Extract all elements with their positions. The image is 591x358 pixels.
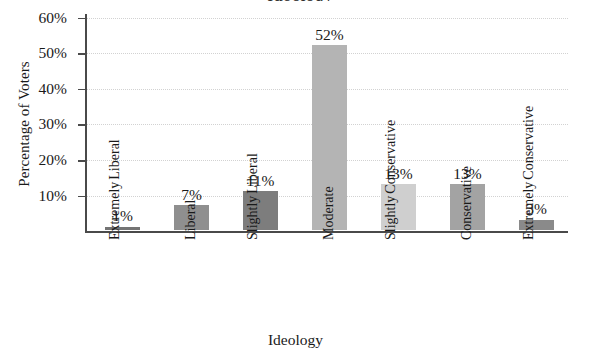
category-label-word: Liberal: [108, 139, 123, 179]
category-label-word: Liberal: [246, 153, 261, 193]
y-tick-label: 40%: [39, 81, 67, 97]
category-label: ExtremelyConservative: [522, 106, 537, 240]
category-label: SlightlyConservative: [384, 120, 399, 240]
gridline-60: [85, 18, 568, 19]
category-label-word: Liberal: [184, 200, 199, 240]
y-tick-label: 10%: [39, 188, 67, 204]
category-label-word: Moderate: [322, 186, 337, 240]
category-label-word: Slightly: [246, 196, 261, 240]
category-label: SlightlyLiberal: [246, 153, 261, 240]
x-axis-title: Ideology: [0, 331, 591, 349]
y-tick-30: 30%: [78, 124, 86, 126]
y-axis-title: Percentage of Voters: [13, 9, 35, 239]
bar-chart: Ideology Percentage of Voters 10%20%30%4…: [0, 0, 591, 358]
category-label-word: Extremely: [522, 182, 537, 240]
y-tick-10: 10%: [78, 196, 86, 198]
category-label: Conservative: [460, 166, 475, 240]
y-tick-60: 60%: [78, 18, 86, 20]
chart-title-text: Ideology: [267, 0, 332, 1]
y-tick-label: 30%: [39, 117, 67, 133]
y-tick-label: 20%: [39, 152, 67, 168]
category-label: Liberal: [184, 200, 199, 240]
category-label: ExtremelyLiberal: [108, 139, 123, 240]
category-label-word: Conservative: [460, 166, 475, 240]
category-label-word: Conservative: [522, 106, 537, 180]
y-tick-label: 60%: [39, 10, 67, 26]
category-label-word: Conservative: [384, 120, 399, 194]
bar-value-label: 52%: [315, 27, 343, 43]
y-tick-40: 40%: [78, 89, 86, 91]
chart-title-cutoff: Ideology: [170, 0, 430, 1]
category-label-word: Extremely: [108, 182, 123, 240]
y-tick-label: 50%: [39, 45, 67, 61]
category-label-word: Slightly: [384, 196, 399, 240]
y-tick-50: 50%: [78, 53, 86, 55]
category-label: Moderate: [322, 186, 337, 240]
y-tick-20: 20%: [78, 160, 86, 162]
